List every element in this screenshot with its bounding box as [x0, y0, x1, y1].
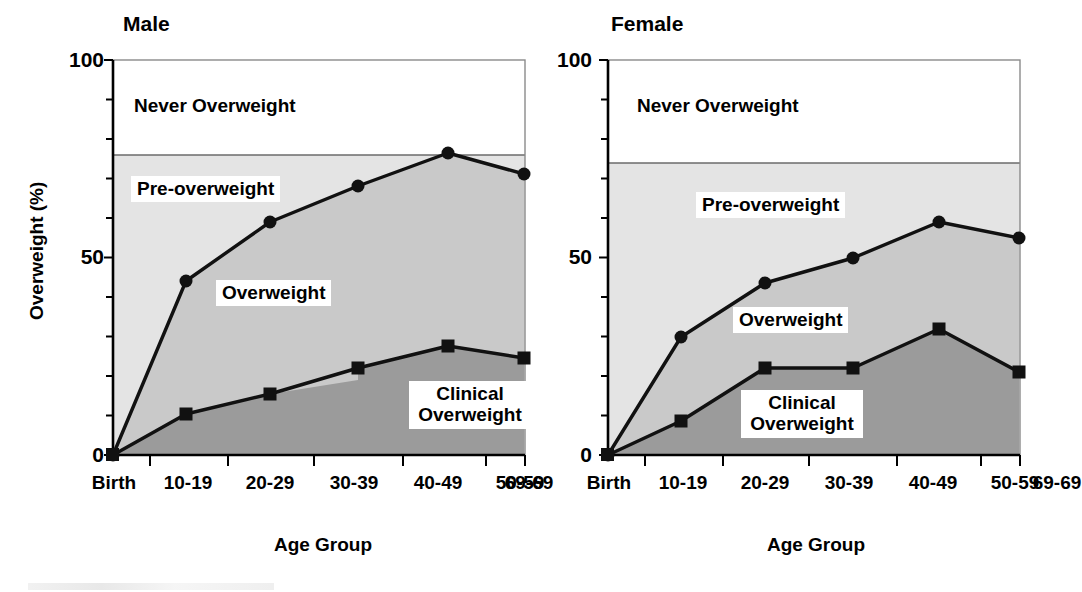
x-axis-title-male: Age Group [243, 534, 403, 556]
annotation-overweight-female: Overweight [733, 307, 848, 333]
x-tick-label-birth-male: Birth [78, 472, 150, 494]
panel-female: Female 100 50 0 [541, 0, 1082, 592]
x-tick-label-10-19-male: 10-19 [152, 472, 224, 494]
x-ticks-male [150, 455, 525, 466]
x-tick-label-40-49-male: 40-49 [402, 472, 474, 494]
x-ticks-female [645, 455, 1020, 466]
x-tick-label-10-19-female: 10-19 [647, 472, 719, 494]
plot-svg-female [541, 0, 1082, 592]
x-tick-label-69-69-female: 69-69 [1021, 472, 1082, 494]
x-axis-title-female: Age Group [736, 534, 896, 556]
x-tick-label-20-29-male: 20-29 [234, 472, 306, 494]
x-tick-label-20-29-female: 20-29 [729, 472, 801, 494]
annotation-clinical-overweight-line2-female: Overweight [747, 413, 857, 434]
panel-male: Male Overweight (%) 100 50 0 [0, 0, 541, 592]
x-tick-label-30-39-male: 30-39 [318, 472, 390, 494]
y-ticks-male [104, 60, 113, 455]
annotation-clinical-overweight-line2-male: Overweight [415, 404, 525, 425]
y-ticks-female [599, 60, 608, 455]
x-tick-label-birth-female: Birth [573, 472, 645, 494]
annotation-overweight-male: Overweight [216, 280, 331, 306]
annotation-never-overweight-female: Never Overweight [631, 93, 805, 119]
x-tick-label-30-39-female: 30-39 [813, 472, 885, 494]
annotation-clinical-overweight-line1-female: Clinical [747, 392, 857, 413]
scan-artifact [28, 583, 274, 590]
annotation-pre-overweight-male: Pre-overweight [131, 176, 280, 202]
x-tick-label-40-49-female: 40-49 [897, 472, 969, 494]
figure-two-panel-overweight-chart: Male Overweight (%) 100 50 0 [0, 0, 1082, 592]
x-tick-label-69-69-male: 69-69 [484, 472, 574, 494]
annotation-never-overweight-male: Never Overweight [128, 93, 302, 119]
annotation-pre-overweight-female: Pre-overweight [696, 192, 845, 218]
annotation-clinical-overweight-line1-male: Clinical [415, 383, 525, 404]
